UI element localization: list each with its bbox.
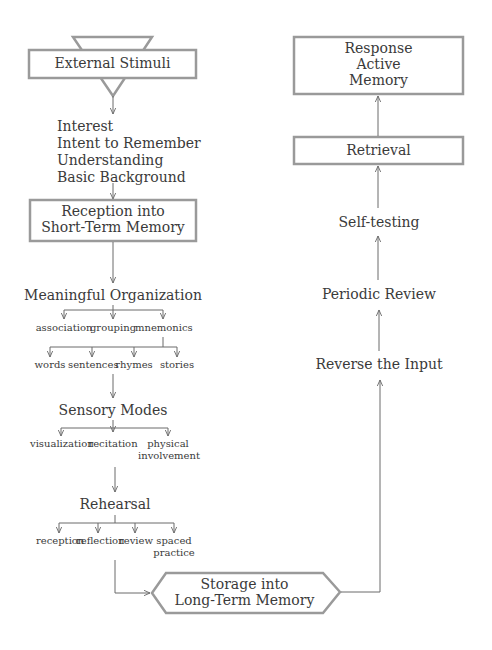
response-label: Response Active Memory — [294, 40, 463, 88]
sensory-modes-label: Sensory Modes — [53, 402, 173, 418]
stories-label: stories — [157, 359, 197, 371]
visualization-label: visualization — [30, 438, 92, 450]
reverse-input-label: Reverse the Input — [294, 356, 464, 372]
rehearsal-label: Rehearsal — [65, 496, 165, 512]
sentences-label: sentences — [68, 359, 116, 371]
reception-box-label: Reception into Short-Term Memory — [30, 203, 196, 235]
storage-line-1: Storage into — [166, 576, 323, 592]
retrieval-label: Retrieval — [294, 142, 463, 158]
prerequisite-item: Basic Background — [57, 169, 201, 186]
recitation-label: recitation — [88, 438, 138, 450]
words-label: words — [30, 359, 70, 371]
association-label: association — [34, 322, 94, 334]
periodic-review-label: Periodic Review — [294, 286, 464, 302]
prerequisite-item: Intent to Remember — [57, 135, 201, 152]
reflection-label: reflection — [76, 535, 122, 547]
spaced-line: spaced — [152, 535, 196, 547]
review-label: review — [119, 535, 151, 547]
prerequisite-item: Understanding — [57, 152, 201, 169]
prerequisite-item: Interest — [57, 118, 201, 135]
practice-line: practice — [152, 547, 196, 559]
grouping-label: grouping — [88, 322, 138, 334]
response-line-2: Active — [294, 56, 463, 72]
response-line-3: Memory — [294, 72, 463, 88]
physical-involvement-label: physical involvement — [138, 438, 198, 461]
prerequisites-list: Interest Intent to Remember Understandin… — [57, 118, 201, 186]
response-line-1: Response — [294, 40, 463, 56]
mnemonics-label: mnemonics — [135, 322, 191, 334]
reception-line-2: Short-Term Memory — [30, 219, 196, 235]
involvement-line: involvement — [138, 450, 198, 462]
spaced-practice-label: spaced practice — [152, 535, 196, 558]
self-testing-label: Self-testing — [294, 214, 464, 230]
physical-line: physical — [138, 438, 198, 450]
storage-line-2: Long-Term Memory — [166, 592, 323, 608]
reception-line-1: Reception into — [30, 203, 196, 219]
rhymes-label: rhymes — [114, 359, 154, 371]
storage-label: Storage into Long-Term Memory — [166, 576, 323, 608]
external-stimuli-label: External Stimuli — [29, 55, 196, 71]
meaningful-organization-label: Meaningful Organization — [13, 287, 213, 303]
